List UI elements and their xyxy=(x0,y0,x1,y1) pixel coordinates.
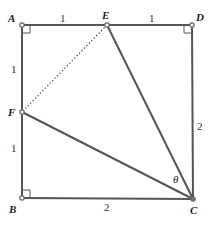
length-DC: 2 xyxy=(197,120,203,132)
point-D xyxy=(190,23,194,27)
label-A: A xyxy=(7,12,15,24)
angle-theta-label: θ xyxy=(173,173,179,185)
segment-DC xyxy=(192,25,193,199)
length-AF: 1 xyxy=(11,63,17,75)
segment-EC xyxy=(107,25,193,199)
label-C: C xyxy=(190,204,198,216)
length-ED: 1 xyxy=(149,12,155,24)
point-E xyxy=(105,23,109,27)
geometry-diagram: A E D F B C 1 1 1 1 2 2 θ xyxy=(0,0,212,226)
segment-CB xyxy=(22,198,193,199)
point-F xyxy=(20,110,24,114)
label-D: D xyxy=(195,11,204,23)
label-B: B xyxy=(8,203,16,215)
length-BC: 2 xyxy=(104,201,110,213)
segment-FC xyxy=(22,112,193,199)
point-B xyxy=(20,196,24,200)
length-AE: 1 xyxy=(60,12,66,24)
label-F: F xyxy=(7,106,16,118)
length-FB: 1 xyxy=(11,142,17,154)
point-A xyxy=(20,23,24,27)
label-E: E xyxy=(101,9,109,21)
point-C xyxy=(191,197,195,201)
segment-EF-dotted xyxy=(22,25,107,112)
